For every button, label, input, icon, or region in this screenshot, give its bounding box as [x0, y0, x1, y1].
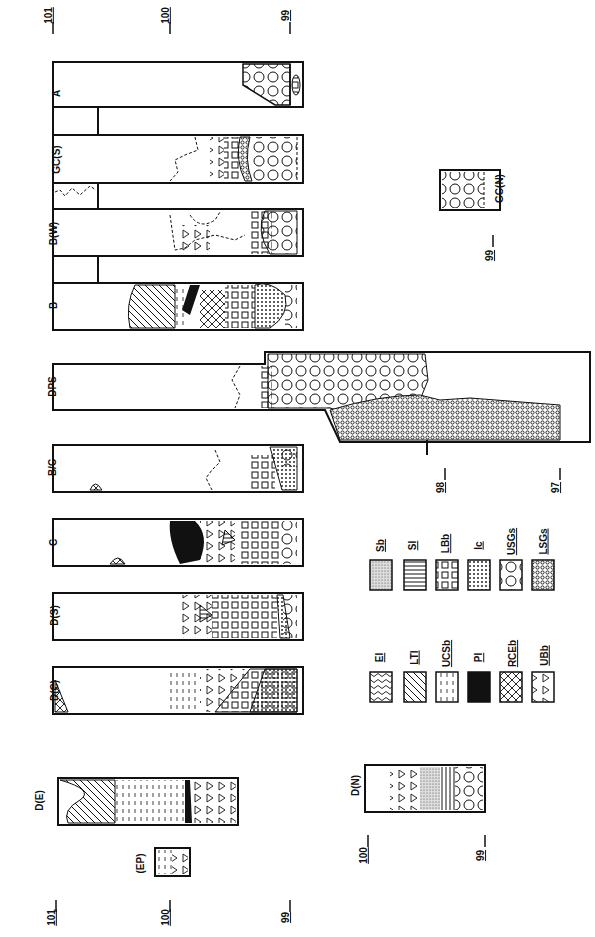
legend-label-El: El [374, 653, 385, 662]
section-label-DN: D(N) [350, 775, 361, 796]
strip-DE [58, 778, 238, 825]
legend-label-USGs: USGs [506, 528, 517, 555]
depth-label: 98 [435, 482, 446, 493]
section-label-GCN: GC(N) [494, 174, 505, 203]
strip-DN [365, 765, 485, 812]
section-label-GCS: GC(S) [51, 145, 62, 173]
legend-label-Sb: Sb [375, 539, 386, 552]
depth-label: 99 [484, 250, 495, 261]
legend-label-LTl: LTl [409, 650, 420, 664]
strip-GCS [53, 135, 303, 183]
strip-BW [53, 209, 303, 256]
legend-row-2 [370, 672, 554, 702]
section-label-DS: D(S) [49, 605, 60, 626]
legend-label-UBb: UBb [539, 645, 550, 666]
strip-GCN [440, 170, 500, 210]
strip-B [53, 283, 303, 330]
depth-label: 100 [160, 909, 171, 926]
section-label-C: C [48, 539, 59, 546]
section-label-EP: (EP) [135, 854, 146, 874]
section-label-B: B [48, 302, 59, 309]
depth-label: 99 [475, 850, 486, 861]
strip-EP [155, 848, 190, 876]
strip-DPS [53, 352, 590, 455]
depth-label: 100 [160, 7, 171, 24]
section-label-BC: B/C [47, 459, 58, 476]
legend-label-UCSb: UCSb [441, 640, 452, 667]
strip-C [53, 519, 303, 566]
stratigraphy-diagram [0, 0, 595, 937]
legend-label-Sl: Sl [407, 541, 418, 550]
strip-DC [53, 667, 303, 714]
strip-A [53, 62, 303, 107]
strip-DS [53, 593, 303, 640]
depth-label: 100 [358, 847, 369, 864]
depth-label: 101 [46, 909, 57, 926]
section-label-DC: D(C) [49, 680, 60, 701]
depth-label: 99 [280, 10, 291, 21]
depth-label: 97 [550, 482, 561, 493]
section-label-A: A [51, 90, 62, 97]
legend-row-1 [370, 560, 554, 590]
depth-label: 101 [43, 7, 54, 24]
depth-label: 99 [280, 912, 291, 923]
section-label-BW: B(W) [48, 222, 59, 245]
strip-BC [53, 445, 303, 492]
legend-label-Pl: Pl [473, 653, 484, 662]
legend-label-Ic: Ic [473, 541, 484, 549]
legend-label-RCEb: RCEb [507, 640, 518, 667]
section-label-DE: D(E) [34, 790, 45, 811]
legend-label-LBb: LBb [440, 534, 451, 553]
legend-label-LSGs: LSGs [538, 528, 549, 554]
section-label-DPS: DPS [47, 376, 58, 397]
